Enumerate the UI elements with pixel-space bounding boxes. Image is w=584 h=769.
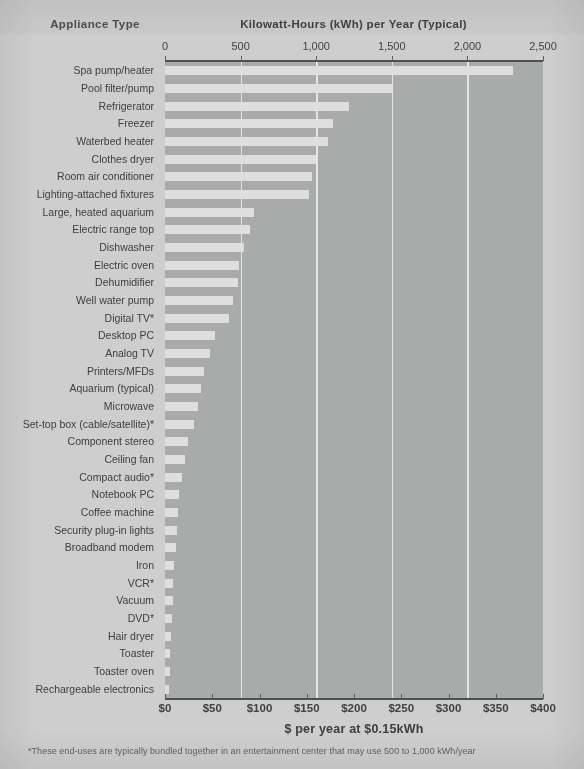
bottom-axis-tick-label: $100 <box>247 702 273 714</box>
footnote: *These end-uses are typically bundled to… <box>28 746 476 756</box>
category-label: VCR* <box>128 578 154 589</box>
category-axis-labels: Spa pump/heaterPool filter/pumpRefrigera… <box>0 62 160 698</box>
category-label: Dehumidifier <box>95 277 154 288</box>
category-label: Toaster oven <box>94 666 154 677</box>
bar <box>165 596 173 605</box>
category-label: Lighting-attached fixtures <box>37 189 154 200</box>
bottom-axis-tick-label: $0 <box>159 702 172 714</box>
bar <box>165 155 316 164</box>
category-label: Digital TV* <box>105 313 154 324</box>
bottom-axis-tick-labels: $0$50$100$150$200$250$300$350$400 <box>0 702 584 718</box>
bar <box>165 208 254 217</box>
bar <box>165 632 171 641</box>
category-label: Refrigerator <box>99 101 154 112</box>
bar <box>165 402 198 411</box>
category-label: Coffee machine <box>81 507 154 518</box>
chart-page: Appliance Type Kilowatt-Hours (kWh) per … <box>0 0 584 769</box>
category-label: Well water pump <box>76 295 154 306</box>
top-axis-tick-mark <box>392 56 393 61</box>
category-label: Toaster <box>120 648 154 659</box>
category-label: Dishwasher <box>99 242 154 253</box>
bar <box>165 649 170 658</box>
gridline <box>392 62 394 698</box>
top-axis-tick-mark <box>543 56 544 61</box>
bar <box>165 437 188 446</box>
top-axis-tick-label: 1,500 <box>378 40 406 52</box>
bar <box>165 420 194 429</box>
category-label: Large, heated aquarium <box>43 207 155 218</box>
bottom-axis-tick-label: $350 <box>483 702 509 714</box>
bar <box>165 190 309 199</box>
category-label: Ceiling fan <box>104 454 154 465</box>
category-label: Hair dryer <box>108 631 154 642</box>
bar <box>165 137 328 146</box>
category-label: Pool filter/pump <box>81 83 154 94</box>
category-label: Security plug-in lights <box>54 525 154 536</box>
bottom-axis-tick-mark <box>307 694 308 699</box>
top-axis-tick-label: 1,000 <box>302 40 330 52</box>
bar <box>165 296 233 305</box>
bottom-axis-tick-label: $300 <box>436 702 462 714</box>
bar <box>165 349 210 358</box>
top-axis-tick-label: 2,000 <box>454 40 482 52</box>
bar <box>165 614 172 623</box>
bar <box>165 473 182 482</box>
bar <box>165 455 185 464</box>
bar <box>165 261 239 270</box>
bar <box>165 561 174 570</box>
bottom-axis-tick-label: $250 <box>388 702 414 714</box>
bar <box>165 66 513 75</box>
bar <box>165 490 179 499</box>
category-label: Set-top box (cable/satellite)* <box>23 419 154 430</box>
bottom-axis-tick-label: $50 <box>203 702 222 714</box>
bar <box>165 384 201 393</box>
category-label: Component stereo <box>68 436 154 447</box>
bottom-axis-tick-mark <box>165 694 166 699</box>
category-label: Freezer <box>118 118 154 129</box>
bottom-axis-tick-mark <box>543 694 544 699</box>
bar <box>165 314 229 323</box>
bottom-axis-tick-label: $200 <box>341 702 367 714</box>
bottom-axis-tick-label: $150 <box>294 702 320 714</box>
category-label: Clothes dryer <box>92 154 154 165</box>
bar <box>165 102 349 111</box>
bar <box>165 243 244 252</box>
bottom-axis-tick-mark <box>401 694 402 699</box>
chart-title: Kilowatt-Hours (kWh) per Year (Typical) <box>165 18 542 30</box>
bar <box>165 543 176 552</box>
bottom-axis-tick-mark <box>354 694 355 699</box>
bar <box>165 119 333 128</box>
top-axis-tick-label: 500 <box>231 40 249 52</box>
category-label: Iron <box>136 560 154 571</box>
category-label: Desktop PC <box>98 330 154 341</box>
category-label: Electric oven <box>94 260 154 271</box>
category-label: Notebook PC <box>92 489 154 500</box>
left-column-title: Appliance Type <box>20 18 170 30</box>
bar <box>165 685 169 694</box>
category-label: Electric range top <box>72 224 154 235</box>
bar <box>165 225 250 234</box>
category-label: Room air conditioner <box>57 171 154 182</box>
bottom-axis-tick-mark <box>496 694 497 699</box>
top-axis-tick-label: 2,500 <box>529 40 557 52</box>
bar <box>165 667 170 676</box>
category-label: Microwave <box>104 401 154 412</box>
top-axis-tick-labels: 05001,0001,5002,0002,500 <box>0 40 584 56</box>
category-label: Broadband modem <box>65 542 154 553</box>
gridline <box>467 62 469 698</box>
gridline <box>316 62 318 698</box>
bottom-axis-tick-mark <box>449 694 450 699</box>
bar <box>165 508 178 517</box>
bar <box>165 526 177 535</box>
bar <box>165 579 173 588</box>
bottom-axis-title: $ per year at $0.15kWh <box>165 722 543 736</box>
top-axis-tick-mark <box>467 56 468 61</box>
category-label: Printers/MFDs <box>87 366 154 377</box>
bar <box>165 331 215 340</box>
bar <box>165 278 238 287</box>
plot-area <box>165 62 543 698</box>
bar <box>165 367 204 376</box>
category-label: Spa pump/heater <box>73 65 154 76</box>
bottom-axis-tick-label: $400 <box>530 702 556 714</box>
bottom-axis-tick-mark <box>260 694 261 699</box>
